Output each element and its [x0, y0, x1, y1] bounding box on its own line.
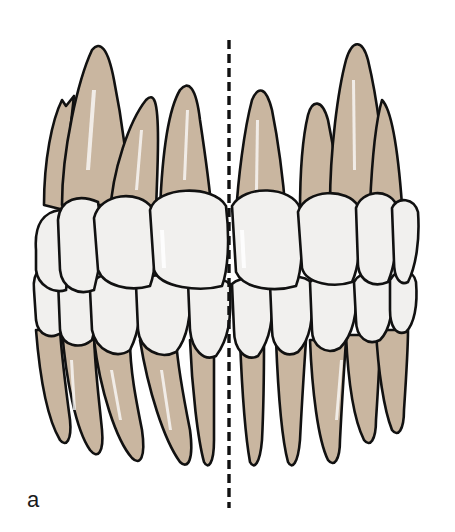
panel-label: a — [27, 487, 39, 513]
dentition-illustration — [0, 0, 455, 532]
upper-crowns — [36, 190, 419, 292]
lower-roots — [36, 330, 408, 465]
upper-roots — [44, 44, 402, 215]
